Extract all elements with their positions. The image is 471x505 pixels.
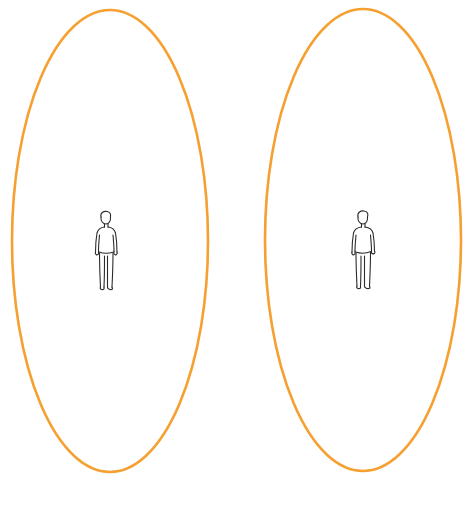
person-figure-right-icon — [352, 211, 375, 289]
person-figure-left-icon — [95, 211, 117, 289]
zone-ellipse-right — [265, 9, 461, 471]
diagram-canvas — [0, 0, 471, 505]
zone-ellipse-left — [12, 10, 208, 472]
figure-caption — [0, 496, 471, 505]
